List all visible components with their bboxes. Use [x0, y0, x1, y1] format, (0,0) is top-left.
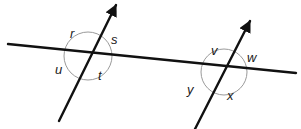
angle-label-w: w — [247, 51, 256, 64]
angle-label-x: x — [227, 89, 234, 102]
angle-label-u: u — [55, 63, 62, 76]
angle-label-s: s — [111, 33, 118, 46]
angle-label-y: y — [187, 83, 194, 96]
right-parallel-ray — [195, 21, 250, 129]
geometry-diagram: r s u t v w y x — [0, 0, 301, 129]
angle-label-r: r — [70, 27, 74, 40]
angle-label-t: t — [98, 69, 102, 82]
angle-label-v: v — [211, 44, 218, 57]
left-parallel-ray — [59, 5, 116, 121]
